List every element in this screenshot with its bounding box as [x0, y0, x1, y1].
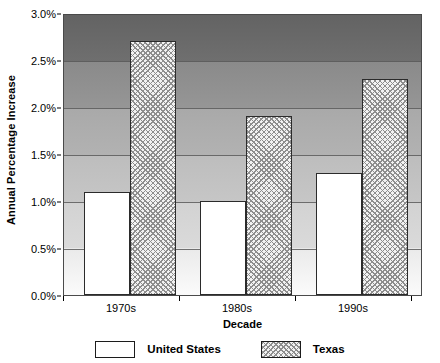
y-tick-mark	[57, 108, 61, 109]
bar-chart: Annual Percentage Increase 3.0% 2.5% 2.0…	[0, 0, 440, 363]
y-tick-mark	[57, 61, 61, 62]
x-tick-label: 1970s	[81, 302, 161, 314]
y-tick-mark	[57, 14, 61, 15]
bar-tx-1970s	[130, 41, 176, 295]
white-box-swatch-icon	[95, 341, 135, 358]
x-tick-mark	[63, 296, 64, 301]
bar-us-1990s	[316, 173, 362, 295]
y-tick-label: 3.0%	[16, 9, 56, 20]
bar-tx-1980s	[246, 116, 292, 295]
legend-label: Texas	[313, 343, 345, 355]
plot-area	[63, 14, 422, 296]
legend-entry-texas: Texas	[261, 341, 345, 358]
y-tick-label: 0.0%	[16, 291, 56, 302]
bar-tx-1990s	[362, 79, 408, 295]
y-tick-mark	[57, 249, 61, 250]
x-tick-mark	[411, 296, 412, 301]
y-tick-mark	[57, 296, 61, 297]
y-tick-mark	[57, 155, 61, 156]
y-tick-label: 2.0%	[16, 103, 56, 114]
x-axis: 1970s 1980s 1990s	[63, 296, 422, 318]
y-tick-mark	[57, 202, 61, 203]
x-tick-label: 1990s	[313, 302, 393, 314]
y-tick-label: 2.5%	[16, 56, 56, 67]
bar-us-1970s	[84, 192, 130, 295]
y-axis-tick-labels: 3.0% 2.5% 2.0% 1.5% 1.0% 0.5% 0.0%	[20, 0, 61, 310]
y-tick-label: 0.5%	[16, 244, 56, 255]
chart-legend: United States Texas	[0, 338, 440, 360]
legend-entry-united-states: United States	[95, 341, 221, 358]
gridline	[64, 61, 421, 62]
y-tick-label: 1.0%	[16, 197, 56, 208]
x-tick-mark	[295, 296, 296, 301]
crosshatch-box-swatch-icon	[261, 341, 301, 358]
x-tick-mark	[179, 296, 180, 301]
legend-label: United States	[147, 343, 221, 355]
y-tick-label: 1.5%	[16, 150, 56, 161]
bar-us-1980s	[200, 201, 246, 295]
x-axis-title: Decade	[63, 318, 422, 330]
x-tick-label: 1980s	[197, 302, 277, 314]
